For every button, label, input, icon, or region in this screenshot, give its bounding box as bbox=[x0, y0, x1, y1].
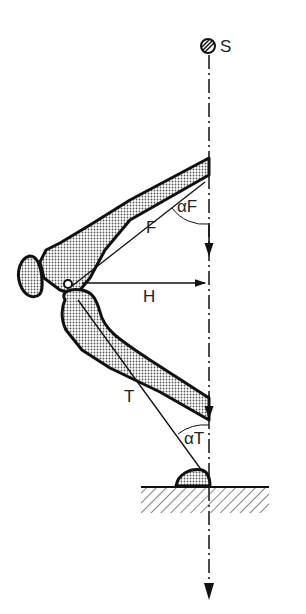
label-h: H bbox=[143, 287, 155, 306]
label-s: S bbox=[220, 37, 231, 56]
knee-force-diagram: S αF F H T αT bbox=[0, 0, 306, 614]
ground bbox=[141, 487, 269, 513]
label-t: T bbox=[124, 387, 134, 406]
foot bbox=[176, 470, 210, 486]
bottom-arrow-icon bbox=[204, 583, 214, 600]
hip-point-s: S bbox=[201, 37, 231, 56]
joint-pivot bbox=[64, 280, 72, 288]
label-f: F bbox=[146, 218, 156, 237]
label-alpha-t: αT bbox=[184, 429, 204, 448]
label-alpha-f: αF bbox=[177, 197, 197, 216]
femur bbox=[40, 158, 209, 294]
patella bbox=[18, 256, 42, 297]
